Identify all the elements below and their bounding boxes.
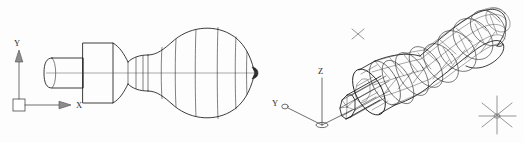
- left-viewport: Y X: [13, 28, 258, 119]
- cad-drawing-canvas: Y X: [0, 0, 524, 143]
- collar-to-waist-bottom: [113, 84, 128, 103]
- shaft-barrel-bottom: [346, 100, 380, 119]
- shaft-endcap-radial-1: [342, 100, 347, 107]
- ucs-x-axis-line-3d: [322, 110, 352, 125]
- grip-long-4: [381, 79, 430, 97]
- handle-top-curve: [172, 28, 254, 70]
- mesh-model-3d: [340, 3, 515, 120]
- blip-marker-right: [479, 96, 516, 134]
- ucs-y-arrow-icon: [15, 50, 23, 62]
- mesh-handle-bulb: [416, 3, 515, 89]
- flange-edge-bottom: [379, 105, 395, 114]
- ucs-z-label: Z: [318, 66, 323, 76]
- ucs-y-end-ellipse: [282, 104, 288, 109]
- cad-scene: Y X: [0, 0, 524, 143]
- ucs-y-label-3d: Y: [272, 98, 278, 108]
- collar-to-waist-top: [113, 43, 128, 62]
- waist-bottom-curve: [128, 84, 148, 91]
- bulb-diag-2: [440, 40, 456, 54]
- waist-to-bulb-bottom: [148, 91, 172, 104]
- bulb-diag-3: [456, 28, 472, 42]
- handle-bottom-curve: [172, 76, 254, 118]
- ucs-x-label: X: [76, 100, 82, 110]
- bulb-top-silhouette: [420, 9, 506, 56]
- ucs-x-arrow-icon: [59, 101, 71, 109]
- ucs-y-axis-line-3d: [288, 108, 322, 125]
- ucs-origin-square: [13, 99, 25, 111]
- ucs-y-label: Y: [14, 38, 20, 48]
- bulb-diag-4: [472, 18, 487, 31]
- flange-edge-top: [359, 61, 375, 70]
- bulb-diag-1: [424, 50, 440, 64]
- blip-marker-upper: [352, 29, 364, 39]
- waist-to-bulb-top: [148, 42, 172, 55]
- grip-diag-3: [404, 55, 418, 72]
- bulb-diag-12: [475, 24, 484, 43]
- grip-diag-1: [375, 61, 390, 79]
- ucs-icon-2d: Y X: [13, 38, 82, 111]
- bulb-long-3: [423, 24, 506, 70]
- waist-top-curve: [128, 55, 148, 62]
- bulb-diag-5: [487, 10, 500, 22]
- bulb-diag-6: [433, 60, 449, 79]
- right-viewport: Z Y X: [272, 3, 516, 134]
